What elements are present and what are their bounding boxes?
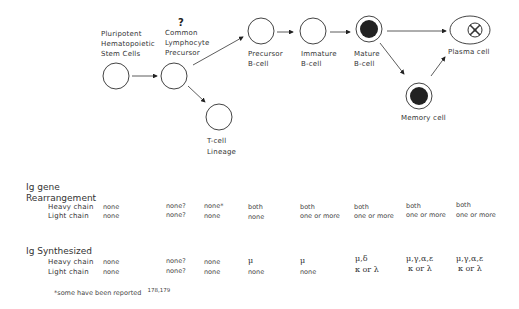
footnote: *some have been reported 178,179 [54, 287, 170, 297]
label-line: B-cell [301, 59, 337, 69]
arrow-matb-memory [380, 43, 404, 74]
rearr-light-clp: none? [166, 211, 186, 219]
tcell-cell [206, 104, 232, 130]
rearr-light-plasma: one or more [456, 211, 496, 219]
rearr-light-memory: one or more [406, 211, 446, 219]
synth-light-immb: none [300, 268, 316, 276]
rearr-light-matb: one or more [354, 212, 394, 220]
synth-heavy-memory: μ,γ,α,ε [406, 254, 433, 263]
rearr-light-stem: none [103, 212, 119, 220]
synth-light-label: Light chain [48, 267, 89, 277]
immb-cell [300, 18, 326, 44]
label-immb: Immature B-cell [301, 49, 337, 69]
rearr-heavy-matb: both [354, 203, 369, 211]
synth-light-matb: κ or λ [355, 265, 379, 274]
synth-heavy-tcell: none [204, 258, 220, 266]
clp-cell [161, 63, 187, 89]
label-line: Precursor [165, 48, 209, 58]
preb-cell [248, 18, 274, 44]
rearr-heavy-plasma: both [456, 201, 471, 209]
synth-light-clp: none? [166, 267, 186, 275]
label-line: Lymphocyte [165, 38, 209, 48]
memory-nucleus [410, 87, 428, 105]
footnote-text: *some have been reported [54, 289, 141, 297]
rearr-heavy-tcell: none* [204, 202, 223, 210]
label-stem: Pluripotent Hematopoietic Stem Cells [101, 29, 155, 59]
label-preb: Precursor B-cell [248, 49, 283, 69]
synth-light-preb: none [248, 268, 264, 276]
label-line: B-cell [354, 59, 380, 69]
synth-light-memory: κ or λ [408, 264, 432, 273]
synth-light-stem: none [103, 268, 119, 276]
rearr-light-label: Light chain [48, 211, 89, 221]
synthesized-title: Ig Synthesized [26, 246, 92, 257]
rearr-heavy-preb: both [248, 203, 263, 211]
label-clp: Common Lymphocyte Precursor [165, 28, 209, 58]
footnote-refs: 178,179 [147, 287, 170, 293]
label-line: Stem Cells [101, 49, 155, 59]
plasma-cell [450, 16, 490, 44]
question-mark: ? [178, 17, 184, 28]
label-plasma: Plasma cell [448, 47, 490, 57]
rearr-light-immb: one or more [300, 212, 340, 220]
synth-light-tcell: none [204, 268, 220, 276]
plasma-nucleus [468, 23, 482, 37]
label-line: B-cell [248, 59, 283, 69]
label-matb: Mature B-cell [354, 49, 380, 69]
rearr-light-preb: none [248, 213, 264, 221]
rearr-light-tcell: none [204, 212, 220, 220]
rearrangement-title: Ig gene Rearrangement [26, 182, 96, 204]
synth-heavy-stem: none [103, 258, 119, 266]
title-line: Ig gene [26, 182, 96, 193]
synth-light-plasma: κ or λ [458, 264, 482, 273]
label-line: Immature [301, 49, 337, 59]
label-line: Common [165, 28, 209, 38]
synth-heavy-clp: none? [166, 257, 186, 265]
rearr-heavy-stem: none [103, 203, 119, 211]
label-line: T-cell [207, 136, 236, 147]
arrow-memory-plasma [431, 57, 445, 76]
label-line: Lineage [207, 147, 236, 158]
synth-heavy-immb: μ [300, 256, 305, 265]
synth-heavy-label: Heavy chain [48, 257, 94, 267]
matb-nucleus [360, 20, 378, 38]
label-line: Hematopoietic [101, 39, 155, 49]
label-line: Precursor [248, 49, 283, 59]
label-line: Mature [354, 49, 380, 59]
synth-heavy-preb: μ [248, 256, 253, 265]
label-memory: Memory cell [401, 113, 446, 123]
rearr-heavy-memory: both [406, 202, 421, 210]
label-line: Pluripotent [101, 29, 155, 39]
synth-heavy-matb: μ,δ [355, 254, 368, 263]
rearr-heavy-immb: both [300, 203, 315, 211]
label-tcell: T-cell Lineage [207, 136, 236, 158]
synth-heavy-plasma: μ,γ,α,ε [456, 254, 483, 263]
arrow-clp-tcell [188, 86, 205, 102]
stem-cell [103, 63, 129, 89]
rearr-heavy-clp: none? [166, 202, 186, 210]
